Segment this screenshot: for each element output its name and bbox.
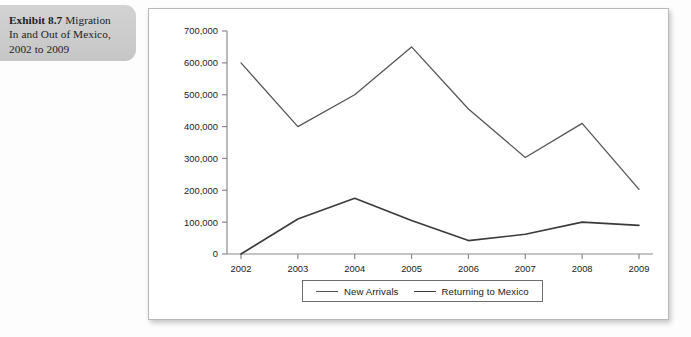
x-axis-tick-label: 2004	[344, 263, 365, 274]
y-axis-tick-label: 100,000	[184, 217, 218, 228]
chart-plot-area: 0100,000200,000300,000400,000500,000600,…	[149, 9, 668, 319]
x-axis-tick-label: 2006	[458, 263, 479, 274]
chart-legend: New Arrivals Returning to Mexico	[302, 280, 543, 302]
exhibit-caption-line1-rest: Migration	[62, 14, 111, 26]
x-axis: 20022003200420052006200720082009	[227, 254, 653, 274]
series-line-new-arrivals	[241, 47, 639, 189]
legend-swatch-new-arrivals-icon	[316, 291, 338, 292]
line-chart-svg: 0100,000200,000300,000400,000500,000600,…	[149, 9, 668, 319]
y-axis-tick-label: 700,000	[184, 25, 218, 36]
legend-label-new-arrivals: New Arrivals	[344, 286, 399, 297]
legend-swatch-returning-to-mexico-icon	[414, 291, 436, 292]
y-axis-tick-label: 0	[213, 248, 218, 259]
exhibit-caption-lead: Exhibit 8.7	[9, 14, 62, 26]
x-axis-tick-label: 2002	[231, 263, 252, 274]
exhibit-caption-text: Exhibit 8.7 Migration In and Out of Mexi…	[9, 13, 127, 56]
exhibit-caption-line2: In and Out of Mexico,	[9, 28, 111, 40]
y-axis-tick-label: 300,000	[184, 153, 218, 164]
exhibit-caption-line3: 2002 to 2009	[9, 43, 69, 55]
series-line-returning-to-mexico	[241, 198, 639, 254]
exhibit-caption-box: Exhibit 8.7 Migration In and Out of Mexi…	[0, 5, 136, 61]
y-axis-tick-label: 600,000	[184, 57, 218, 68]
y-axis-tick-label: 500,000	[184, 89, 218, 100]
y-axis: 0100,000200,000300,000400,000500,000600,…	[184, 25, 227, 259]
x-axis-tick-label: 2009	[629, 263, 650, 274]
legend-label-returning-to-mexico: Returning to Mexico	[442, 286, 529, 297]
chart-series-group	[241, 47, 639, 254]
x-axis-tick-label: 2008	[572, 263, 593, 274]
y-axis-tick-label: 200,000	[184, 185, 218, 196]
page-background: Exhibit 8.7 Migration In and Out of Mexi…	[0, 0, 691, 337]
x-axis-tick-label: 2003	[287, 263, 308, 274]
chart-card: 0100,000200,000300,000400,000500,000600,…	[148, 8, 669, 320]
legend-item-new-arrivals[interactable]: New Arrivals	[316, 286, 399, 297]
legend-item-returning-to-mexico[interactable]: Returning to Mexico	[414, 286, 529, 297]
y-axis-tick-label: 400,000	[184, 121, 218, 132]
x-axis-tick-label: 2007	[515, 263, 536, 274]
x-axis-tick-label: 2005	[401, 263, 422, 274]
